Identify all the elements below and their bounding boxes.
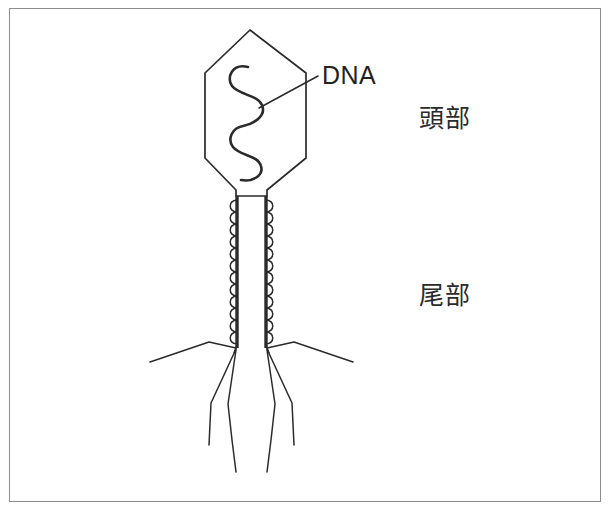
tail-label: 尾部 <box>419 283 471 308</box>
dna-strand <box>230 66 263 180</box>
figure-canvas: DNA 頭部 尾部 <box>0 0 610 511</box>
tail-fibers <box>150 342 353 472</box>
phage-diagram <box>0 0 610 511</box>
base-plate <box>234 345 269 353</box>
capsid-head <box>205 30 306 196</box>
dna-label: DNA <box>322 63 376 88</box>
head-label: 頭部 <box>419 106 471 131</box>
dna-leader-line <box>259 76 318 108</box>
tail-core <box>237 196 266 348</box>
